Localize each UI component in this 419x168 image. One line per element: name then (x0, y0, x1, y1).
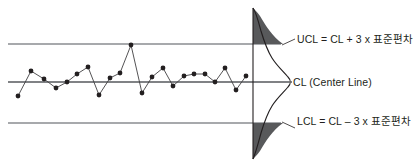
data-series (16, 43, 249, 99)
lower-tail-shading (253, 123, 283, 159)
lcl-leader-line (282, 122, 295, 128)
cl-annotation-label: CL (Center Line) (293, 77, 372, 88)
series-line (18, 45, 246, 96)
ucl-leader-line (282, 39, 295, 45)
figure-canvas: UCL = CL + 3 x 표준편차 CL (Center Line) LCL… (0, 0, 419, 168)
lcl-annotation-label: LCL = CL – 3 x 표준편차 (297, 116, 411, 127)
upper-tail-shading (253, 8, 283, 44)
normal-distribution (253, 8, 290, 159)
ucl-annotation-label: UCL = CL + 3 x 표준편차 (297, 34, 413, 45)
